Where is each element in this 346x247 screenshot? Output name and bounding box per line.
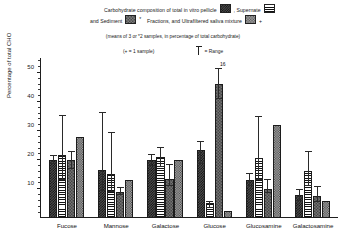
error-bar-cap <box>296 200 303 201</box>
error-bar-cap <box>215 68 222 69</box>
error-bar-cap <box>264 179 271 180</box>
y-axis-minor-tick <box>38 177 40 178</box>
error-bar <box>218 68 219 99</box>
y-axis-major-tick <box>37 130 40 131</box>
bar-checker <box>49 160 57 218</box>
error-bar-cap <box>99 190 106 191</box>
error-bar-cap <box>148 165 155 166</box>
x-axis-category-label: Galactosamine <box>293 222 334 229</box>
error-bar <box>53 155 54 163</box>
error-bar <box>169 164 170 186</box>
y-axis-minor-tick <box>38 107 40 108</box>
y-axis-line <box>40 58 41 218</box>
error-bar-cap <box>108 191 115 192</box>
error-bar-cap <box>59 179 66 180</box>
y-axis-minor-tick <box>38 78 40 79</box>
error-bar-cap <box>246 173 253 174</box>
y-axis-minor-tick <box>38 171 40 172</box>
bar-dots <box>174 160 182 218</box>
legend-line-2: and Sediment * Fractions, and Ultrafilte… <box>0 15 346 26</box>
bar-dots <box>76 137 84 218</box>
y-axis-minor-tick <box>38 66 40 67</box>
legend-text-sediment: and Sediment <box>90 18 122 24</box>
error-bar-cap <box>314 186 321 187</box>
bar-group: 16Glucose <box>196 58 234 218</box>
error-bar-icon <box>195 46 202 55</box>
y-axis-major-tick <box>37 188 40 189</box>
error-bar <box>317 186 318 202</box>
dotted-swatch-icon <box>245 15 256 24</box>
bar-fine-checker <box>215 84 223 218</box>
error-bar-cap <box>117 187 124 188</box>
bar-dots <box>322 201 330 218</box>
error-bar <box>267 179 268 194</box>
error-bar-cap <box>305 151 312 152</box>
error-bar-cap <box>59 115 66 116</box>
y-axis-minor-tick <box>38 95 40 96</box>
error-bar <box>200 141 201 164</box>
error-bar-cap <box>206 207 213 208</box>
y-axis-minor-tick <box>38 148 40 149</box>
bar-group: Glucosamine <box>245 58 283 218</box>
y-axis-minor-tick <box>38 206 40 207</box>
bar-dots <box>224 211 232 218</box>
bar-group: Mannose <box>97 58 135 218</box>
error-bar-cap <box>305 185 312 186</box>
error-bar-cap <box>157 147 164 148</box>
bar-fine-checker <box>264 189 272 218</box>
error-bar-cap <box>68 168 75 169</box>
error-bar-cap <box>108 132 115 133</box>
y-axis-minor-tick <box>38 136 40 137</box>
y-axis-minor-tick <box>38 60 40 61</box>
bar-dots <box>273 125 281 218</box>
legend-text-ultrafiltered: Fractions, and Ultrafiltered saliva mixt… <box>147 18 242 24</box>
error-bar-cap <box>166 185 173 186</box>
legend-asterisk: * <box>139 16 141 22</box>
error-bar-cap <box>197 141 204 142</box>
y-axis-minor-tick <box>38 118 40 119</box>
x-axis-category-label: Fucose <box>57 222 77 229</box>
error-bar <box>258 116 259 180</box>
error-bar <box>120 187 121 194</box>
error-bar-cap <box>206 201 213 202</box>
y-axis-major-tick <box>37 159 40 160</box>
error-bar-cap <box>314 201 321 202</box>
bar-group: Fucose <box>48 58 86 218</box>
y-axis-minor-tick <box>38 113 40 114</box>
error-bar-cap <box>50 155 57 156</box>
error-bar-cap <box>246 185 253 186</box>
horizontal-lines-swatch-icon <box>264 4 275 13</box>
legend-line-1: Carbohydrate composition of total in vit… <box>0 4 346 15</box>
bar-fine-checker <box>67 160 75 218</box>
fine-checker-swatch-icon <box>125 15 136 24</box>
y-axis-major-tick <box>37 101 40 102</box>
chart-subtitle: (means of 3 or *2 samples, in percentage… <box>0 34 346 39</box>
bar-fine-checker <box>116 192 124 218</box>
x-axis-category-label: Galactose <box>152 222 179 229</box>
error-bar-cap <box>68 151 75 152</box>
x-axis-category-label: Mannose <box>104 222 129 229</box>
y-axis-minor-tick <box>38 124 40 125</box>
error-bar-cap <box>197 163 204 164</box>
note-range: = Range <box>204 49 223 54</box>
bar-checker <box>147 160 155 218</box>
bar-group: Galactose <box>146 58 184 218</box>
y-axis-tick-label: 40 <box>14 92 34 98</box>
error-bar <box>308 151 309 186</box>
error-bar-cap <box>166 164 173 165</box>
y-axis-minor-tick <box>38 153 40 154</box>
error-bar <box>151 154 152 166</box>
x-axis-category-label: Glucosamine <box>246 222 282 229</box>
note-single-sample: (+ = 1 sample) <box>123 49 155 54</box>
error-bar-cap <box>50 163 57 164</box>
chart-figure: Carbohydrate composition of total in vit… <box>0 0 346 247</box>
error-bar <box>209 201 210 208</box>
error-bar-cap <box>255 116 262 117</box>
error-bar-cap <box>264 192 271 193</box>
error-bar <box>71 151 72 168</box>
y-axis-minor-tick <box>38 182 40 183</box>
y-axis-minor-tick <box>38 142 40 143</box>
error-bar-cap <box>296 189 303 190</box>
y-axis-tick-label: 30 <box>14 121 34 127</box>
y-axis-minor-tick <box>38 89 40 90</box>
